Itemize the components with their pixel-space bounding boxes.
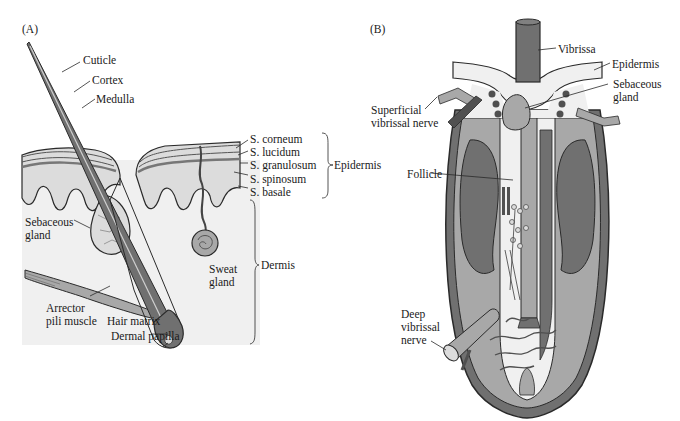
panel-a-tag: (A) (22, 23, 38, 36)
label-arrector-line2: pili muscle (46, 315, 97, 328)
label-cuticle: Cuticle (83, 54, 116, 67)
label-s-granulosum: S. granulosum (250, 159, 316, 172)
label-follicle: Follicle (407, 168, 442, 181)
label-sebaceous-gland-b-line2: gland (613, 91, 639, 104)
label-sweat-gland-line1: Sweat (209, 263, 237, 276)
anatomy-figure: (A) Cuticle Cortex Medulla S. corneum S.… (0, 0, 680, 421)
vibrissa-shaft (516, 22, 540, 82)
vibrissa-top (516, 19, 540, 25)
label-s-spinosum: S. spinosum (250, 173, 306, 186)
sebaceous-gland-b (502, 95, 530, 130)
panel-b-tag: (B) (370, 23, 385, 36)
label-s-lucidum: S. lucidum (250, 146, 300, 159)
label-s-corneum: S. corneum (250, 133, 302, 146)
label-dermis: Dermis (261, 259, 295, 272)
label-hair-matrix: Hair matrix (107, 315, 160, 328)
inner-root-sheath (540, 130, 552, 360)
label-deep-nerve-line2: vibrissal (401, 321, 440, 334)
panel-b-illustration (425, 19, 620, 418)
blood-sinus-right (557, 140, 595, 274)
label-arrector-line1: Arrector (46, 302, 85, 315)
label-superficial-nerve-line1: Superficial (371, 104, 421, 117)
label-s-basale: S. basale (250, 186, 291, 199)
label-superficial-nerve-line2: vibrissal nerve (371, 117, 438, 130)
label-dermal-papilla: Dermal papilla (111, 330, 180, 343)
label-epidermis-b: Epidermis (612, 58, 659, 71)
label-sebaceous-gland-b-line1: Sebaceous (613, 78, 662, 91)
label-epidermis-a: Epidermis (334, 159, 381, 172)
follicle-stripe (507, 187, 510, 215)
label-sebaceous-gland-a-line2: gland (25, 229, 51, 242)
vibrissa-shaft-inner (521, 118, 537, 318)
label-cortex: Cortex (92, 74, 123, 87)
label-deep-nerve-line3: nerve (401, 334, 427, 347)
blood-sinus-left (460, 140, 498, 274)
label-sweat-gland-line2: gland (209, 276, 235, 289)
follicle-stripe (502, 187, 505, 215)
label-sebaceous-gland-a-line1: Sebaceous (25, 216, 74, 229)
label-vibrissa: Vibrissa (558, 43, 596, 56)
label-deep-nerve-line1: Deep (401, 308, 425, 321)
label-medulla: Medulla (96, 93, 134, 106)
